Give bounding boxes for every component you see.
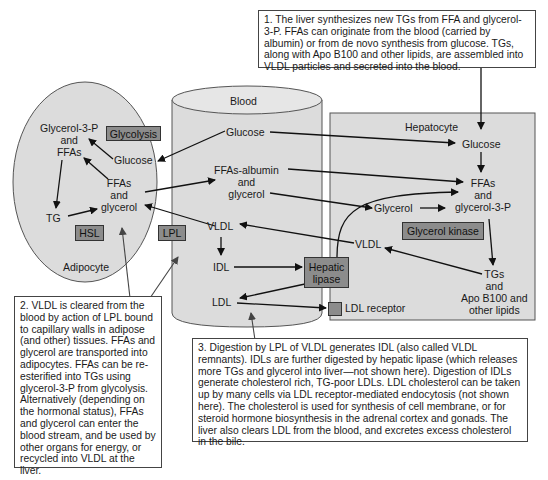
hepatocyte-tgs-apob100: TGs and Apo B100 and other lipids (461, 268, 528, 316)
hepatocyte-label: Hepatocyte (405, 121, 458, 133)
blood-ffas-albumin-glycerol: FFAs-albumin and glycerol (214, 164, 279, 200)
adipocyte-glucose: Glucose (114, 154, 153, 166)
note-3-ldl-digestion: 3. Digestion by LPL of VLDL generates ID… (192, 338, 528, 442)
adipocyte-glycerol3p-ffas: Glycerol-3-P and FFAs (40, 122, 98, 158)
blood-label: Blood (230, 95, 257, 107)
glycolysis-enzyme: Glycolysis (106, 126, 161, 141)
ldl-receptor-square (328, 302, 342, 316)
blood-ldl: LDL (212, 296, 231, 308)
hepatocyte-glycerol: Glycerol (374, 202, 413, 214)
hepatocyte-ffas-glycerol3p: FFAs and glycerol-3-P (455, 177, 511, 213)
note-2-vldl-clearance: 2. VLDL is cleared from the blood by act… (14, 296, 162, 468)
hepatic-lipase-enzyme: Hepatic lipase (304, 257, 349, 288)
blood-glucose: Glucose (226, 126, 265, 138)
adipocyte-ffas-glycerol: FFAs and glycerol (101, 177, 137, 213)
blood-vldl: VLDL (207, 220, 233, 232)
blood-idl: IDL (213, 261, 229, 273)
glycerol-kinase-enzyme: Glycerol kinase (402, 222, 484, 240)
hepatocyte-vldl: VLDL (355, 238, 381, 250)
hsl-enzyme: HSL (75, 225, 104, 241)
adipocyte-tg: TG (46, 212, 61, 224)
ldl-receptor-label: LDL receptor (345, 302, 405, 314)
adipocyte-label: Adipocyte (63, 261, 109, 273)
hepatocyte-glucose: Glucose (462, 138, 501, 150)
note-1-liver-synthesis: 1. The liver synthesizes new TGs from FF… (258, 10, 536, 68)
lpl-enzyme: LPL (158, 225, 186, 241)
